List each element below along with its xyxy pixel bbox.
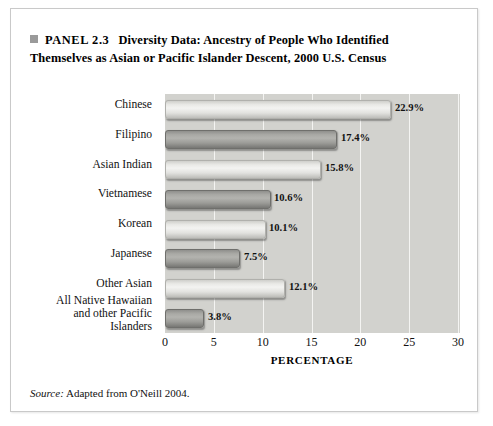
xtick-20: 20 [354, 335, 366, 350]
chart-area: Chinese Filipino Asian Indian Vietnamese… [30, 89, 464, 379]
x-axis-title: PERCENTAGE [164, 354, 460, 366]
category-label-chinese: Chinese [24, 98, 152, 111]
bar-value-filipino: 17.4% [341, 132, 370, 143]
xtick-10: 10 [257, 335, 269, 350]
xtick-5: 5 [211, 335, 217, 350]
bar-value-native-hawaiian: 3.8% [208, 311, 232, 322]
category-axis: Chinese Filipino Asian Indian Vietnamese… [30, 94, 158, 333]
xtick-0: 0 [162, 335, 168, 350]
bar-korean [165, 220, 266, 239]
category-label-native-hawaiian-line-1: All Native Hawaiian [24, 294, 152, 307]
bar-value-japanese: 7.5% [244, 251, 268, 262]
plot-area: 22.9% 17.4% 15.8% 10.6% 10.1% 7.5% [164, 94, 460, 333]
panel-title-line-2: Themselves as Asian or Pacific Islander … [30, 49, 462, 67]
category-label-japanese: Japanese [24, 247, 152, 260]
bar-other-asian [165, 279, 285, 298]
category-label-native-hawaiian-line-3: Islanders [24, 320, 152, 333]
xtick-30: 30 [452, 335, 464, 350]
panel-title-block: PANEL 2.3Diversity Data: Ancestry of Peo… [30, 31, 462, 67]
panel-container: PANEL 2.3Diversity Data: Ancestry of Peo… [10, 8, 478, 412]
bar-japanese [165, 249, 240, 268]
bar-chinese [165, 100, 391, 119]
bar-filipino [165, 130, 337, 149]
source-label: Source: [30, 387, 64, 399]
gridline-25 [409, 94, 410, 333]
bar-value-vietnamese: 10.6% [274, 192, 303, 203]
bar-value-asian-indian: 15.8% [325, 162, 354, 173]
source-text: Adapted from O'Neill 2004. [66, 387, 190, 399]
panel-title-text-line-1: Diversity Data: Ancestry of People Who I… [118, 33, 388, 47]
category-label-native-hawaiian-line-2: and other Pacific [24, 307, 152, 320]
bar-asian-indian [165, 160, 321, 179]
bar-vietnamese [165, 190, 271, 209]
gridline-30 [458, 94, 459, 333]
xtick-25: 25 [403, 335, 415, 350]
category-label-vietnamese: Vietnamese [24, 187, 152, 200]
category-label-other-asian: Other Asian [24, 277, 152, 290]
bar-value-other-asian: 12.1% [289, 281, 318, 292]
bar-value-chinese: 22.9% [395, 102, 424, 113]
panel-title-line-1: PANEL 2.3Diversity Data: Ancestry of Peo… [30, 31, 462, 49]
gridline-20 [360, 94, 361, 333]
x-axis: 0 5 10 15 20 25 30 [164, 335, 460, 355]
category-label-asian-indian: Asian Indian [24, 158, 152, 171]
panel-tag: PANEL 2.3 [45, 33, 109, 47]
xtick-15: 15 [306, 335, 318, 350]
bar-value-korean: 10.1% [269, 222, 298, 233]
category-label-filipino: Filipino [24, 128, 152, 141]
category-label-korean: Korean [24, 217, 152, 230]
square-bullet-icon [30, 35, 38, 43]
source-note: Source: Adapted from O'Neill 2004. [30, 387, 190, 399]
bar-native-hawaiian [165, 309, 204, 328]
